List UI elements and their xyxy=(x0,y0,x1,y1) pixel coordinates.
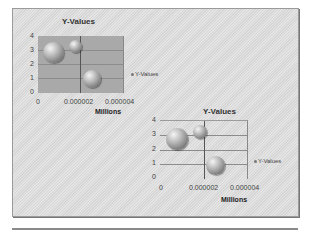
y-tick: 4 xyxy=(148,116,156,123)
plot-area[interactable] xyxy=(160,120,248,179)
legend[interactable]: Y-Values xyxy=(254,158,281,164)
legend-label: Y-Values xyxy=(258,158,281,164)
bubble-chart-2[interactable]: Y-Values 4 3 2 1 0 0 0.000002 0.000004 M… xyxy=(0,0,311,232)
y-tick: 0 xyxy=(148,173,156,180)
legend-marker-icon xyxy=(254,160,257,163)
x-axis-label: Millions xyxy=(221,196,247,203)
bubble-point[interactable] xyxy=(206,156,225,175)
x-tick: 0.000004 xyxy=(230,184,259,191)
y-tick: 3 xyxy=(148,130,156,137)
divider-line xyxy=(12,228,298,230)
chart-title: Y-Values xyxy=(203,107,236,116)
x-tick: 0.000002 xyxy=(189,184,218,191)
x-tick: 0 xyxy=(159,184,163,191)
y-tick: 1 xyxy=(148,159,156,166)
y-tick: 2 xyxy=(148,145,156,152)
bubble-point[interactable] xyxy=(166,128,188,150)
bubble-point[interactable] xyxy=(193,125,207,139)
